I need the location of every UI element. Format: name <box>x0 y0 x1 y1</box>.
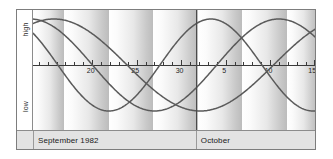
month-bar: September 1982October <box>17 130 315 149</box>
month-bar-divider <box>196 131 197 149</box>
y-axis-label-low: low <box>22 90 29 124</box>
month-label: September 1982 <box>38 131 99 149</box>
month-divider-line <box>196 10 197 132</box>
month-label: October <box>201 131 230 149</box>
biorhythm-chart: high low 20253051015 September 1982Octob… <box>16 9 316 150</box>
month-bar-gutter-divider <box>33 131 34 149</box>
biorhythm-curves <box>33 10 315 132</box>
curve-intellectual <box>33 19 315 111</box>
y-axis-label-high: high <box>22 13 29 47</box>
plot-area: 20253051015 <box>33 10 315 132</box>
y-axis-gutter: high low <box>17 10 33 149</box>
